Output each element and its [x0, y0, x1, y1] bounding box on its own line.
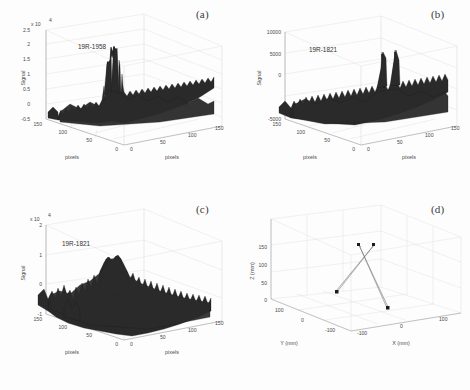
panel-c-ytick-0: 150	[34, 316, 43, 322]
panel-d-marker-3	[386, 306, 390, 310]
panel-a-exponent: x 10	[31, 21, 41, 27]
panel-d: (d) 150 100 50 0 Z (mm) 100 0	[235, 195, 470, 390]
panel-c-xtick-2: 100	[188, 327, 197, 333]
figure-root: (a) x 10 4 2.5 2 1.5 1 0.5 0 -0.5	[0, 0, 470, 390]
panel-d-zticks: 150 100 50 0 Z (mm)	[249, 244, 267, 303]
panel-a-ztick-3: 1	[27, 71, 30, 77]
panel-a: (a) x 10 4 2.5 2 1.5 1 0.5 0 -0.5	[0, 0, 235, 195]
panel-d-xlabel: X (mm)	[392, 340, 410, 346]
panel-a-ytick-1: 100	[59, 129, 68, 135]
panel-d-ztick-1: 100	[259, 262, 268, 268]
panel-c: (c) x 10 4 2 1 0 -1 Signal 150 100	[0, 195, 235, 390]
panel-d-ztick-2: 50	[261, 280, 267, 286]
panel-c-ytick-3: 0	[115, 341, 118, 347]
panel-b-xtick-0: 0	[367, 146, 370, 152]
panel-b-plot: 10000 5000 0 -5000 Signal 150 100 50 0 p…	[235, 0, 470, 195]
panel-b-surface	[279, 50, 448, 125]
panel-a-xtick-0: 0	[130, 146, 133, 152]
panel-d-marker-0	[357, 243, 360, 246]
panel-d-zlabel: Z (mm)	[249, 262, 255, 280]
panel-a-ztick-5: 0	[27, 101, 30, 107]
panel-b-ztick-0: 10000	[267, 29, 281, 35]
panel-b-yticks: 150 100 50 0 pixels	[273, 121, 356, 160]
panel-d-ylabel: Y (mm)	[280, 340, 298, 346]
panel-a-exponent-power: 4	[49, 17, 52, 23]
panel-d-ytick-0: 100	[275, 307, 284, 313]
panel-a-ytick-0: 150	[34, 121, 43, 127]
panel-b-ztick-1: 5000	[270, 51, 281, 57]
panel-d-xtick-0: -100	[357, 330, 367, 336]
panel-c-xtick-3: 150	[215, 320, 224, 326]
panel-b-zticks: 10000 5000 0 -5000 Signal	[256, 29, 281, 122]
panel-a-ytick-3: 0	[115, 146, 118, 152]
panel-c-ytick-2: 50	[86, 332, 92, 338]
panel-c-series-label: 19R-1821	[62, 240, 91, 247]
panel-b-series-label: 19R-1821	[309, 46, 338, 53]
panel-d-marker-2	[335, 290, 339, 294]
panel-c-ztick-0: 2	[39, 222, 42, 228]
panel-d-ytick-1: 0	[301, 317, 304, 323]
panel-d-ztick-0: 150	[259, 244, 268, 250]
panel-b-ytick-0: 150	[273, 121, 282, 127]
panel-a-ylabel: pixels	[65, 154, 79, 160]
panel-a-xlabel: pixels	[165, 154, 179, 160]
panel-a-zticks: x 10 4 2.5 2 1.5 1 0.5 0 -0.5 Signal	[20, 17, 52, 122]
panel-b: (b) 10000 5000 0 -5000 Signal 150 100 50	[235, 0, 470, 195]
panel-a-xtick-1: 50	[160, 139, 166, 145]
panel-b-ytick-3: 0	[352, 146, 355, 152]
panel-c-xtick-1: 50	[160, 334, 166, 340]
panel-a-xticks: 0 50 100 150 pixels	[130, 125, 224, 160]
panel-b-xticks: 0 50 100 150 pixels	[367, 125, 460, 160]
panel-d-ztick-3: 0	[264, 297, 267, 303]
panel-a-plot: x 10 4 2.5 2 1.5 1 0.5 0 -0.5 Signal 150…	[0, 0, 235, 195]
panel-d-marker-1	[372, 243, 375, 246]
panel-c-plot: x 10 4 2 1 0 -1 Signal 150 100 50 0 pixe…	[0, 195, 235, 390]
panel-d-ytick-2: -100	[325, 327, 335, 333]
panel-d-grid	[271, 205, 461, 331]
panel-b-ytick-2: 50	[324, 137, 330, 143]
panel-c-zlabel: Signal	[20, 266, 26, 281]
panel-a-ztick-0: 2.5	[23, 27, 30, 33]
panel-b-ztick-2: 0	[278, 72, 281, 78]
panel-c-ztick-2: 0	[39, 281, 42, 287]
panel-a-ztick-6: -0.5	[21, 116, 30, 122]
panel-a-ztick-2: 1.5	[23, 56, 30, 62]
panel-b-xlabel: pixels	[402, 154, 416, 160]
panel-a-ytick-2: 50	[86, 137, 92, 143]
panel-c-xlabel: pixels	[165, 349, 179, 355]
panel-c-exponent-power: 4	[48, 212, 51, 218]
panel-b-xtick-1: 50	[397, 139, 403, 145]
panel-c-ylabel: pixels	[65, 349, 79, 355]
panel-d-xticks: -100 0 100 X (mm)	[357, 316, 448, 346]
panel-a-ztick-4: 0.5	[23, 86, 30, 92]
panel-c-ytick-1: 100	[59, 324, 68, 330]
panel-a-yticks: 150 100 50 0 pixels	[34, 121, 119, 160]
panel-a-grid	[46, 14, 222, 145]
panel-a-series-label: 19R-1958	[78, 43, 107, 50]
panel-a-ztick-1: 2	[27, 41, 30, 47]
panel-b-xtick-3: 150	[451, 125, 460, 131]
panel-a-surface	[48, 46, 214, 126]
panel-d-xtick-1: 0	[400, 323, 403, 329]
panel-b-xtick-2: 100	[425, 132, 434, 138]
panel-b-ylabel: pixels	[303, 154, 317, 160]
panel-b-ytick-1: 100	[297, 129, 306, 135]
panel-c-ztick-1: 1	[39, 252, 42, 258]
panel-d-xtick-2: 100	[439, 316, 448, 322]
panel-a-zlabel: Signal	[20, 71, 26, 86]
panel-b-zlabel: Signal	[256, 71, 262, 86]
panel-c-xtick-0: 0	[130, 341, 133, 347]
panel-d-plot: 150 100 50 0 Z (mm) 100 0 -100 Y (mm) -1…	[235, 195, 470, 390]
panel-a-xtick-3: 150	[215, 125, 224, 131]
panel-a-xtick-2: 100	[188, 132, 197, 138]
